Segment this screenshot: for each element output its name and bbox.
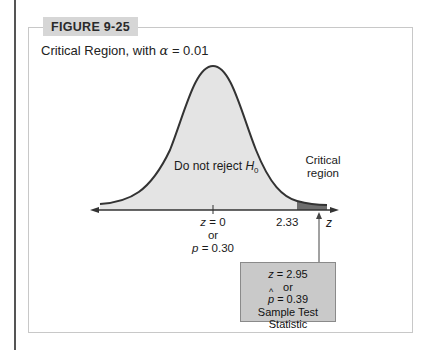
test-statistic-arrow-icon (316, 212, 322, 219)
do-not-reject-label: Do not reject H0 (174, 160, 259, 177)
critical-region-label: Critical region (300, 154, 346, 180)
non-rejection-area (100, 66, 297, 210)
center-value-label: z = 0 or p = 0.30 (183, 216, 243, 255)
sample-test-statistic-box: z = 2.95 or ^p = 0.39 Sample Test Statis… (240, 262, 336, 322)
axis-variable-label: z (326, 217, 332, 230)
critical-value-label: 2.33 (276, 216, 298, 229)
axis-left-arrow-icon (90, 207, 99, 213)
axis-right-arrow-icon (330, 207, 339, 213)
